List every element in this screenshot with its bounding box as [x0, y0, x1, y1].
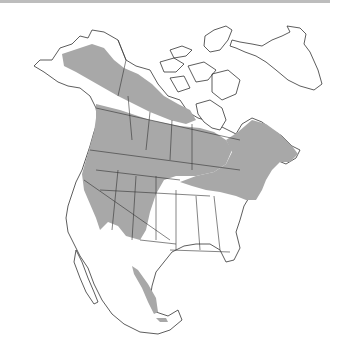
greenland: [230, 26, 322, 90]
arctic-islands: [160, 26, 240, 100]
range-map: [0, 0, 361, 353]
